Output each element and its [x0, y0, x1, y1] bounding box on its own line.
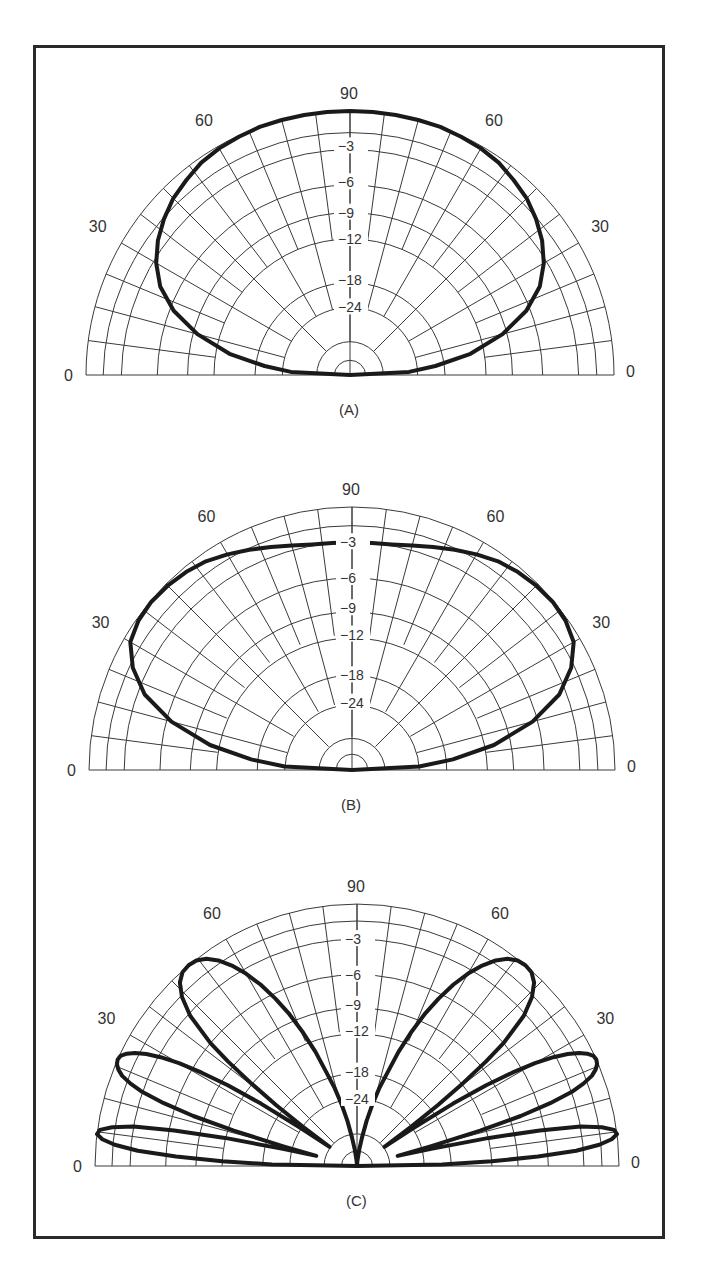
grid-spoke-minor	[189, 166, 267, 268]
grid-spoke	[121, 243, 291, 341]
grid-spoke-minor	[375, 906, 392, 1032]
grid-spoke-minor	[316, 113, 333, 240]
db-ring-label: −6	[340, 570, 356, 586]
db-ring-label: −12	[338, 231, 362, 247]
grid-spoke	[166, 584, 329, 747]
db-ring-label: −9	[338, 205, 354, 221]
angle-label: 30	[591, 218, 609, 235]
angle-label: 30	[98, 1010, 116, 1027]
grid-spoke-minor	[323, 906, 340, 1032]
grid-spoke	[289, 913, 339, 1101]
angle-label: 30	[596, 1010, 614, 1027]
grid-spoke-minor	[434, 561, 512, 662]
db-ring-label: −24	[345, 1091, 369, 1107]
db-ring-label: −18	[340, 667, 364, 683]
angle-label: 0	[626, 363, 635, 380]
angle-label: 90	[340, 85, 358, 102]
db-ring-label: −12	[340, 627, 364, 643]
angle-label: 60	[485, 112, 503, 129]
grid-spoke-minor	[192, 561, 270, 662]
angle-label: 0	[67, 762, 76, 779]
grid-spoke-minor	[109, 669, 227, 718]
angle-label: 60	[203, 905, 221, 922]
grid-spoke	[409, 243, 579, 341]
grid-spoke-minor	[88, 341, 215, 358]
grid-spoke-minor	[370, 509, 387, 635]
db-ring-label: −6	[345, 967, 361, 983]
angle-label: 60	[195, 112, 213, 129]
db-ring-label: −3	[340, 534, 356, 550]
db-ring-label: −3	[345, 931, 361, 947]
grid-spoke	[226, 939, 323, 1108]
grid-spoke	[410, 639, 579, 737]
angle-label: 30	[592, 614, 610, 631]
angle-label: 0	[64, 367, 73, 384]
grid-spoke-minor	[433, 166, 511, 268]
polar-chart-c: −3−6−9−12−18−24030609060300(C)	[73, 878, 640, 1209]
db-ring-label: −9	[340, 600, 356, 616]
grid-spoke-minor	[459, 610, 560, 688]
polar-chart-b: −3−6−9−12−18−24030609060300(B)	[67, 481, 636, 813]
grid-spoke	[221, 542, 319, 711]
grid-spoke-minor	[318, 509, 335, 635]
grid-spoke	[375, 584, 538, 747]
db-ring-label: −18	[345, 1064, 369, 1080]
angle-label: 0	[627, 758, 636, 775]
angle-label: 30	[92, 614, 110, 631]
grid-spoke	[386, 542, 484, 711]
chart-caption: (A)	[339, 401, 359, 418]
chart-caption: (C)	[346, 1192, 367, 1209]
grid-spoke-minor	[477, 669, 595, 718]
db-ring-label: −9	[345, 997, 361, 1013]
db-ring-label: −3	[338, 138, 354, 154]
grid-spoke	[218, 146, 316, 316]
polar-chart-a: −3−6−9−12−18−24030609060300(A)	[64, 85, 635, 418]
db-ring-label: −24	[338, 299, 362, 315]
angle-label: 90	[342, 481, 360, 498]
angle-label: 30	[89, 218, 107, 235]
grid-spoke-minor	[485, 341, 612, 358]
db-ring-label: −18	[338, 272, 362, 288]
angle-label: 60	[198, 508, 216, 525]
grid-spoke	[124, 639, 293, 737]
db-ring-label: −6	[338, 174, 354, 190]
angle-label: 90	[347, 878, 365, 895]
db-ring-label: −24	[340, 695, 364, 711]
angle-label: 60	[491, 905, 509, 922]
grid-spoke-minor	[368, 113, 385, 240]
chart-caption: (B)	[341, 796, 361, 813]
angle-label: 60	[487, 508, 505, 525]
figure-canvas: −3−6−9−12−18−24030609060300(A) −3−6−9−12…	[0, 0, 701, 1263]
angle-label: 0	[73, 1158, 82, 1175]
grid-spoke	[374, 913, 424, 1101]
grid-spoke-minor	[143, 610, 244, 688]
grid-spoke	[391, 939, 488, 1108]
db-ring-label: −12	[345, 1023, 369, 1039]
grid-spoke	[384, 146, 482, 316]
angle-label: 0	[631, 1154, 640, 1171]
